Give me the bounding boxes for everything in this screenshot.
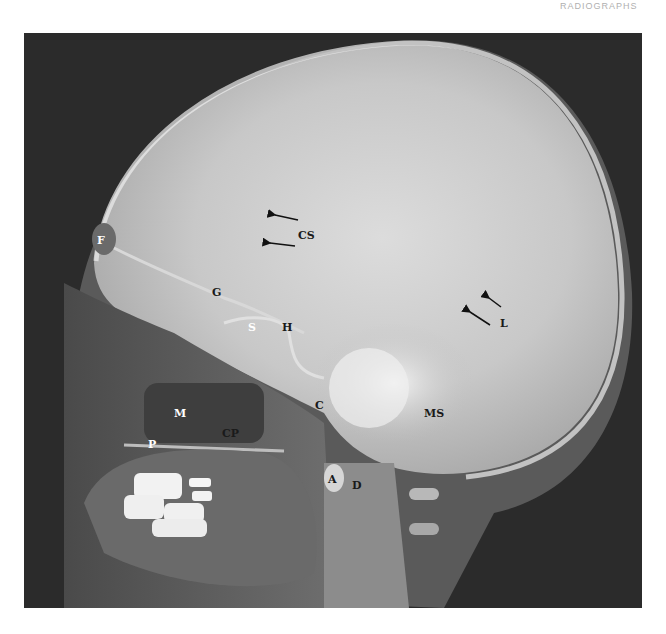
- label-dens: D: [352, 480, 362, 492]
- label-sphenoid-sinus: S: [248, 322, 256, 334]
- skull-radiograph: [24, 33, 642, 608]
- label-frontal-sinus: F: [97, 235, 105, 247]
- radiograph-image: [24, 33, 642, 608]
- label-hypophyseal-fossa: H: [282, 322, 292, 334]
- label-coronal-suture: CS: [298, 230, 315, 242]
- label-palate: P: [148, 439, 156, 451]
- label-lambdoid-suture: L: [500, 318, 508, 330]
- label-maxillary-sinus: M: [174, 408, 186, 420]
- label-coronoid-process: CP: [222, 428, 239, 440]
- label-condyle: C: [315, 400, 324, 412]
- label-atlas: A: [328, 474, 337, 486]
- page-header-fragment: RADIOGRAPHS: [560, 2, 660, 10]
- label-g: G: [212, 287, 221, 299]
- label-mastoid: MS: [424, 408, 444, 420]
